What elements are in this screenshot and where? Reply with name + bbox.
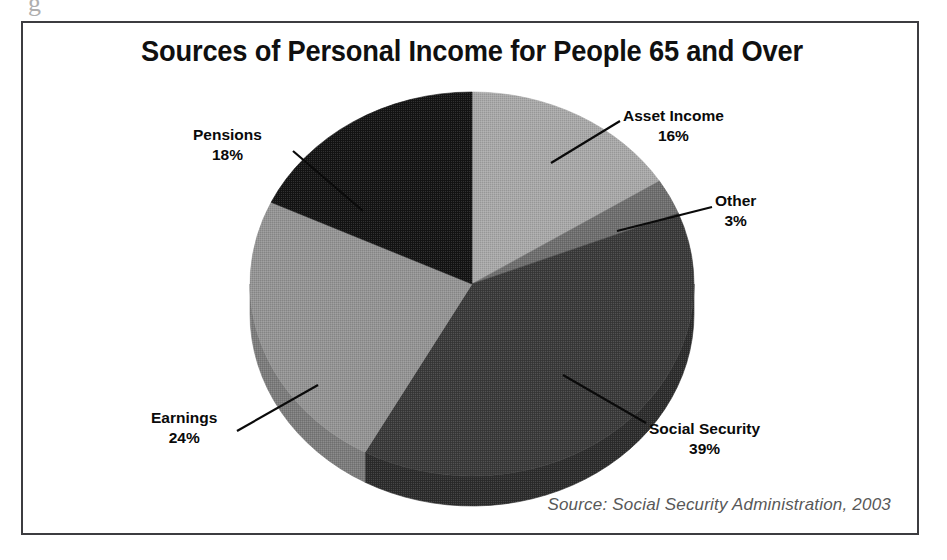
pie-label-asset-income: Asset Income 16%	[623, 106, 724, 147]
pie-label-other-value: 3%	[715, 211, 756, 231]
pie-label-earnings-name: Earnings	[151, 408, 217, 428]
pie-label-asset-income-value: 16%	[623, 126, 724, 146]
pie-label-earnings: Earnings 24%	[151, 408, 217, 449]
pie-label-other: Other 3%	[715, 191, 756, 232]
pie-label-pensions: Pensions 18%	[193, 125, 262, 166]
pie-label-social-security: Social Security 39%	[649, 419, 760, 460]
pie-label-social-security-value: 39%	[649, 439, 760, 459]
pie-label-pensions-value: 18%	[193, 145, 262, 165]
pie-label-social-security-name: Social Security	[649, 419, 760, 439]
pie-chart	[23, 23, 921, 537]
pie-group	[250, 92, 694, 506]
pie-label-pensions-name: Pensions	[193, 125, 262, 145]
source-note: Source: Social Security Administration, …	[547, 495, 891, 515]
pie-label-asset-income-name: Asset Income	[623, 106, 724, 126]
pie-label-other-name: Other	[715, 191, 756, 211]
figure-frame: Sources of Personal Income for People 65…	[21, 21, 919, 535]
page-bleed-glyph: g	[28, 0, 42, 18]
pie-label-earnings-value: 24%	[151, 428, 217, 448]
